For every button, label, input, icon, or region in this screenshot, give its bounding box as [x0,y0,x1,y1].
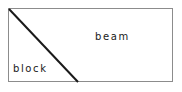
diagonal-line-layer [0,0,182,92]
beam-on-block-diagram: beam block [0,0,182,92]
beam-label: beam [95,32,130,42]
block-label: block [13,64,48,74]
